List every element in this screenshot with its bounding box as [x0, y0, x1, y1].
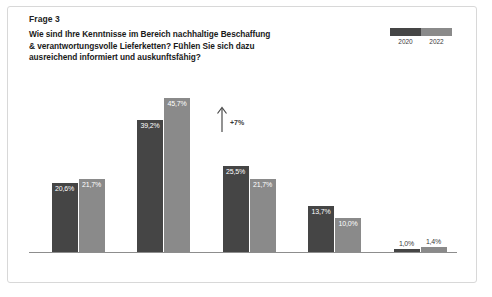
question-line-3: ausreichend informiert und auskunftsfähi… [29, 52, 359, 64]
bar-value-label: 10,0% [339, 220, 358, 227]
chart-card: Frage 3 Wie sind Ihre Kenntnisse im Bere… [7, 6, 477, 283]
legend-swatch-2020 [390, 28, 421, 36]
bar-value-label: 13,7% [312, 208, 331, 215]
bar-2022: 10,0% [335, 218, 361, 252]
legend-label-2020: 2020 [390, 38, 421, 45]
bar-group: 20,6%21,7% [36, 179, 120, 252]
bar-value-label: 25,5% [226, 168, 245, 175]
legend-swatch-2022 [421, 28, 452, 36]
bar-group: 39,2%45,7% [122, 98, 206, 252]
bar-group: 1,0%1,4% [378, 247, 462, 252]
chart-legend: 2020 2022 [390, 28, 454, 45]
question-text: Wie sind Ihre Kenntnisse im Bereich nach… [29, 29, 359, 64]
bar-2022: 45,7% [164, 98, 190, 252]
bar-value-label: 39,2% [141, 122, 160, 129]
question-line-1: Wie sind Ihre Kenntnisse im Bereich nach… [29, 29, 359, 41]
bar-2022: 21,7% [250, 179, 276, 252]
bar-2022: 21,7% [79, 179, 105, 252]
delta-label: +7% [230, 119, 244, 126]
up-arrow-icon [215, 105, 229, 133]
bar-2020: 25,5% [223, 166, 249, 252]
legend-label-2022: 2022 [421, 38, 452, 45]
bar-chart-plot: +7% 20,6%21,7%sehr gute39,2%45,7%grundle… [29, 85, 457, 253]
card-header: Frage 3 Wie sind Ihre Kenntnisse im Bere… [29, 14, 359, 64]
bar-value-label: 21,7% [82, 181, 101, 188]
axis-baseline [29, 252, 457, 253]
bar-group: 25,5%21,7% [207, 166, 291, 252]
bar-2022: 1,4% [421, 247, 447, 252]
question-number: Frage 3 [29, 14, 359, 24]
bar-2020: 1,0% [394, 249, 420, 252]
legend-labels: 2020 2022 [390, 38, 452, 45]
bar-value-label: 45,7% [168, 100, 187, 107]
bar-2020: 13,7% [308, 206, 334, 252]
bar-value-label: 21,7% [253, 181, 272, 188]
question-line-2: & verantwortungsvolle Lieferketten? Fühl… [29, 41, 359, 53]
growth-annotation: +7% [215, 105, 261, 137]
legend-swatches [390, 28, 452, 36]
bar-value-label: 1,0% [399, 240, 414, 247]
bar-value-label: 1,4% [426, 238, 441, 245]
bar-group: 13,7%10,0% [293, 206, 377, 252]
bar-2020: 39,2% [137, 120, 163, 252]
bar-2020: 20,6% [52, 183, 78, 252]
bar-value-label: 20,6% [55, 185, 74, 192]
